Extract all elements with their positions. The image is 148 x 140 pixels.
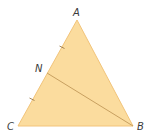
vertex-label-c: C xyxy=(7,121,14,132)
triangle-diagram: A N C B xyxy=(0,0,148,140)
vertex-label-b: B xyxy=(137,121,144,132)
vertex-label-n: N xyxy=(35,63,43,74)
vertex-label-a: A xyxy=(72,7,80,18)
